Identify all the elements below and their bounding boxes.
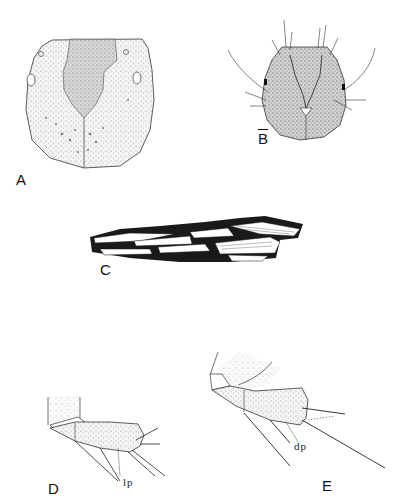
figure-b-head-setose [228, 20, 375, 140]
panel-label-c: C [100, 262, 111, 277]
panel-label-e: E [322, 478, 332, 493]
annotation-lp: lp [123, 477, 134, 488]
annotation-dp: dp [294, 441, 307, 452]
panel-label-d: D [48, 481, 59, 496]
figure-a-head-capsule [26, 39, 154, 168]
figure-c-larval-case [90, 216, 303, 262]
panel-label-a: A [16, 172, 26, 187]
figure-d-proleg [48, 395, 165, 481]
illustration-plate [0, 0, 413, 503]
panel-label-b: B [258, 131, 268, 146]
